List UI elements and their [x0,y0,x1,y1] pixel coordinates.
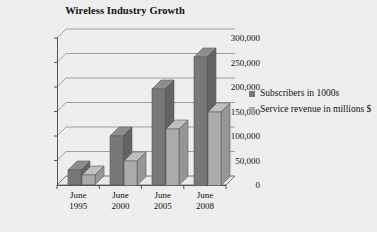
chart-container: Wireless Industry Growth 300,000250,0002… [0,0,377,232]
legend-item: Subscribers in 1000s [249,88,377,100]
bar-service-revenue [208,103,230,186]
x-axis-tick-line: 1995 [56,201,100,212]
x-axis-tick-label: June2008 [183,190,227,212]
x-axis-tick-label: June2000 [98,190,142,212]
bar-service-revenue [82,166,104,185]
y-axis-line [57,37,58,186]
chart-legend: Subscribers in 1000s Service revenue in … [249,88,377,119]
x-axis-tick-line: June [141,190,185,201]
x-axis-tick-line: June [183,190,227,201]
legend-label-subscribers: Subscribers in 1000s [260,88,339,100]
legend-item: Service revenue in millions $ [249,104,377,116]
legend-swatch-subscribers [249,91,255,97]
x-axis-tick-label: June1995 [56,190,100,212]
x-axis-tick-line: June [56,190,100,201]
y-axis-tick-label: 300,000 [208,33,260,43]
bar-service-revenue [124,152,146,186]
x-axis-tick-label: June2005 [141,190,185,212]
x-axis-tick-line: 2000 [98,201,142,212]
plot-area: 300,000250,000200,000150,000100,00050,00… [0,0,260,232]
x-axis-tick-line: June [98,190,142,201]
legend-label-service-revenue: Service revenue in millions $ [260,104,371,116]
legend-swatch-service-revenue [249,107,255,113]
x-axis-tick-line: 2005 [141,201,185,212]
bar-service-revenue [166,120,188,185]
x-axis-tick-line: 2008 [183,201,227,212]
